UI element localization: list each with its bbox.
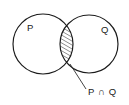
venn-diagram-canvas: P Q P ∩ Q xyxy=(0,0,129,105)
set-label-p: P xyxy=(27,22,33,33)
set-label-q: Q xyxy=(101,24,108,35)
intersection-leader-line xyxy=(70,64,86,89)
venn-diagram-figure: P Q P ∩ Q xyxy=(0,0,129,105)
intersection-caption: P ∩ Q xyxy=(88,86,117,97)
